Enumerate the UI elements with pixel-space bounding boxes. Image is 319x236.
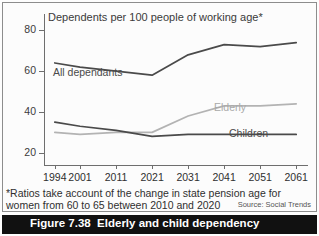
figure-caption: Figure 7.38 Elderly and child dependency [30, 217, 259, 229]
series-label-all-dependants: All dependants [53, 66, 122, 78]
figure-container: Dependents per 100 people of working age… [0, 0, 319, 236]
figure-caption-text: Elderly and child dependency [97, 217, 259, 229]
figure-number: Figure 7.38 [30, 217, 91, 229]
series-label-children: Children [229, 127, 268, 139]
series-label-elderly: Elderly [214, 101, 246, 113]
chart-source: Source: Social Trends [238, 200, 311, 209]
